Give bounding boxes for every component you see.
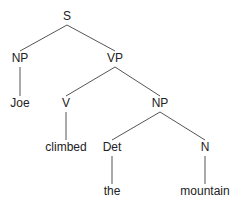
edge-s-vp bbox=[67, 25, 115, 51]
edge-s-np1 bbox=[20, 25, 67, 51]
edge-np2-n bbox=[160, 112, 205, 140]
node-n: N bbox=[201, 140, 210, 154]
node-s: S bbox=[63, 9, 71, 23]
node-the: the bbox=[104, 184, 121, 198]
tree-nodes: SNPVPJoeVNPclimbedDetNthemountain bbox=[10, 9, 229, 198]
node-det: Det bbox=[103, 140, 122, 154]
node-mountain: mountain bbox=[180, 184, 229, 198]
node-vp: VP bbox=[107, 51, 123, 65]
parse-tree-diagram: SNPVPJoeVNPclimbedDetNthemountain bbox=[0, 0, 234, 209]
edge-vp-v bbox=[66, 67, 115, 96]
tree-edges bbox=[20, 25, 205, 184]
edge-vp-np2 bbox=[115, 67, 160, 96]
node-np1: NP bbox=[12, 51, 29, 65]
node-v: V bbox=[62, 96, 70, 110]
edge-np2-det bbox=[112, 112, 160, 140]
node-climbed: climbed bbox=[45, 140, 86, 154]
node-joe: Joe bbox=[10, 96, 30, 110]
node-np2: NP bbox=[152, 96, 169, 110]
